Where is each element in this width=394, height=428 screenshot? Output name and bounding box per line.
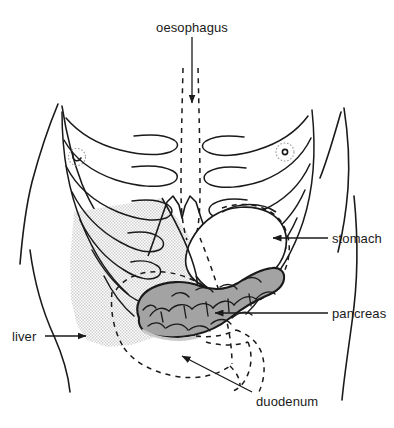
label-stomach: stomach: [332, 231, 382, 246]
anatomy-diagram: oesophagus stomach pancreas liver duoden…: [0, 0, 394, 428]
right-nipple-marker: [276, 143, 294, 161]
label-duodenum: duodenum: [256, 394, 318, 409]
duodenum-leader: [182, 356, 252, 392]
oesophagus-dashed-tube: [181, 68, 200, 240]
label-liver: liver: [12, 329, 37, 344]
label-pancreas: pancreas: [332, 306, 387, 321]
label-oesophagus: oesophagus: [156, 20, 228, 35]
